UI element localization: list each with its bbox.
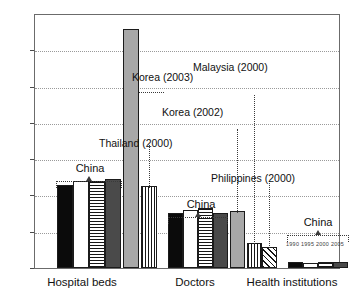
ytick-mark-1 <box>30 232 34 233</box>
group-label-doctors: Doctors <box>140 276 250 288</box>
bar-doctors-malaysia-2000 <box>247 243 262 268</box>
china-label-hospital: China <box>51 163 129 174</box>
china-brace-tip-hospital <box>86 176 92 181</box>
ytick-mark-5 <box>30 87 34 88</box>
bar-doctors-korea-2002 <box>230 211 245 268</box>
bar-hospital-china-2000 <box>89 181 105 268</box>
leader-philippines-2000 <box>269 181 270 248</box>
leader-korea-2003 <box>139 92 164 93</box>
ytick-mark-3 <box>30 159 34 160</box>
china-brace-tip-doctors <box>195 212 201 217</box>
ytick-mark-2 <box>30 195 34 196</box>
annotation-korea-2002: Korea (2002) <box>162 107 223 118</box>
bar-doctors-philippines-2000 <box>262 247 277 268</box>
bar-institutions-china-2000 <box>318 262 333 268</box>
gridline-6 <box>35 51 339 52</box>
bar-hospital-thailand-2000 <box>141 186 157 268</box>
leader-malaysia-2000 <box>254 95 255 244</box>
bar-institutions-china-2005 <box>333 262 348 268</box>
annotation-thailand-2000: Thailand (2000) <box>99 138 173 149</box>
bar-institutions-china-1995 <box>303 263 318 268</box>
group-label-health-institutions: Health institutions <box>237 276 347 288</box>
bar-hospital-china-2005 <box>105 179 121 268</box>
china-brace-doctors <box>168 217 228 224</box>
china-brace-hospital <box>56 181 122 188</box>
leader-thailand-2000 <box>149 145 150 188</box>
group-label-hospital-beds: Hospital beds <box>22 276 142 288</box>
ytick-mark-4 <box>30 123 34 124</box>
china-years-label: 1990 1995 2000 2005 <box>286 241 344 247</box>
china-brace-tip-institutions <box>315 230 321 235</box>
china-label-institutions: China <box>280 217 349 228</box>
annotation-korea-2003: Korea (2003) <box>132 72 193 83</box>
china-label-doctors: China <box>162 199 240 210</box>
leader-korea-2002 <box>237 129 238 213</box>
bar-chart: China China China 1990 1995 2000 2005 7.… <box>0 0 349 302</box>
gridline-5 <box>35 88 339 89</box>
gridline-3 <box>35 160 339 161</box>
bar-hospital-china-1990 <box>57 185 73 269</box>
bar-institutions-china-1990 <box>288 262 303 268</box>
bar-hospital-china-1995 <box>73 181 89 268</box>
plot-area: China China China 1990 1995 2000 2005 <box>34 14 340 269</box>
ytick-mark-6 <box>30 50 34 51</box>
gridline-4 <box>35 124 339 125</box>
annotation-malaysia-2000: Malaysia (2000) <box>193 62 268 73</box>
annotation-philippines-2000: Philippines (2000) <box>211 173 295 184</box>
ytick-mark-0 <box>30 268 34 269</box>
